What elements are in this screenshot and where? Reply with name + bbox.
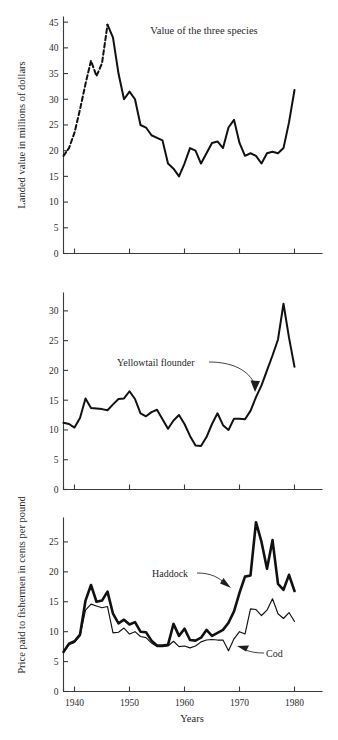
x-axis-title: Years (180, 713, 203, 724)
y-tick-label: 5 (54, 657, 59, 667)
x-tick-label: 1970 (230, 698, 249, 708)
haddock-arrowhead (220, 578, 231, 588)
x-tick-label: 1980 (285, 698, 304, 708)
panel1-y-tick-labels: 051015202530354045 (49, 18, 59, 259)
y-tick-label: 10 (49, 425, 59, 435)
panel-haddock-cod: 0510152025 19401950196019701980 Haddock … (16, 495, 322, 724)
panel1-tick-marks (64, 22, 295, 253)
y-tick-label: 0 (54, 687, 59, 697)
annotation-cod: Cod (266, 648, 283, 659)
y-tick-label: 20 (49, 146, 59, 156)
series-yellowtail-flounder (64, 304, 295, 446)
panel1-y-axis-title: Landed value in millions of dollars (16, 61, 27, 208)
y-tick-label: 25 (49, 120, 59, 130)
series-cod (64, 599, 295, 652)
y-tick-label: 0 (54, 249, 59, 259)
y-tick-label: 35 (49, 69, 59, 79)
y-tick-label: 25 (49, 336, 59, 346)
y-tick-label: 5 (54, 455, 59, 465)
y-tick-label: 20 (49, 366, 59, 376)
x-tick-label: 1940 (65, 698, 84, 708)
y-tick-label: 20 (49, 567, 59, 577)
annotation-haddock: Haddock (152, 568, 188, 579)
y-tick-label: 30 (49, 95, 59, 105)
x-tick-label: 1950 (120, 698, 139, 708)
y-tick-label: 0 (54, 485, 59, 495)
panel2-tick-marks (64, 311, 295, 490)
series-landed-value-solid (108, 25, 295, 177)
panel1-title: Value of the three species (150, 25, 257, 36)
panel-landed-value: 051015202530354045 Value of the three sp… (16, 17, 322, 259)
x-tick-label: 1960 (175, 698, 194, 708)
series-haddock (64, 522, 295, 652)
yellowtail-leader-line (209, 362, 255, 385)
three-species-figure: 051015202530354045 Value of the three sp… (0, 0, 338, 740)
y-tick-label: 15 (49, 597, 59, 607)
panel3-y-tick-labels: 0510152025 (49, 537, 59, 697)
y-tick-label: 40 (49, 43, 59, 53)
panel2-y-tick-labels: 051015202530 (49, 306, 59, 495)
y-tick-label: 25 (49, 537, 59, 547)
y-tick-label: 10 (49, 627, 59, 637)
annotation-yellowtail-flounder: Yellowtail flounder (117, 357, 195, 368)
panel3-tick-marks (64, 542, 295, 692)
y-tick-label: 5 (54, 223, 59, 233)
y-tick-label: 45 (49, 18, 59, 28)
panel3-y-axis-title: Price paid to fishermen in cents per pou… (16, 495, 27, 673)
x-tick-labels: 19401950196019701980 (65, 698, 304, 708)
y-tick-label: 30 (49, 306, 59, 316)
figure-container: 051015202530354045 Value of the three sp… (0, 0, 338, 740)
panel-yellowtail-flounder: 051015202530 Yellowtail flounder (49, 293, 322, 495)
y-tick-label: 10 (49, 197, 59, 207)
series-landed-value-dashed (64, 25, 108, 156)
y-tick-label: 15 (49, 172, 59, 182)
y-tick-label: 15 (49, 396, 59, 406)
